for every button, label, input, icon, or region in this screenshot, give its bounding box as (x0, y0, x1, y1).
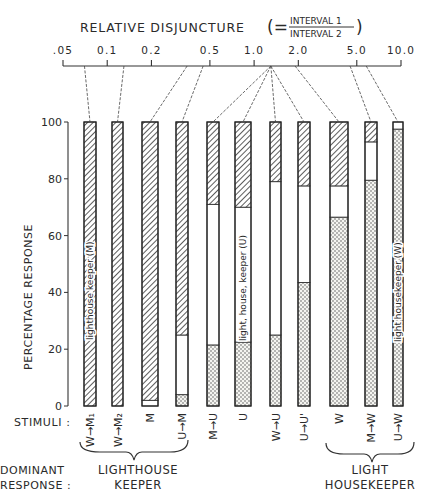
y-tick-label: 40 (48, 286, 62, 299)
segment-lighthouse-keeper (365, 122, 377, 142)
pointer-line (150, 66, 187, 122)
y-tick-label: 60 (48, 230, 62, 243)
bar-6 (270, 122, 281, 406)
dominant-label-line1: DOMINANT (0, 464, 65, 477)
pointer-line (118, 66, 124, 122)
annotation-light-house-keeper: light, house, keeper (U) (238, 235, 248, 341)
pointer-line (366, 66, 398, 122)
disjuncture-chart: RELATIVE DISJUNCTURE (= INTERVAL 1 INTER… (0, 0, 429, 500)
top-tick-label: 2.0 (288, 44, 308, 56)
bar-7 (298, 122, 310, 406)
formula-denominator: INTERVAL 2 (290, 29, 342, 39)
segment-light-house-keeper (207, 204, 219, 345)
bar-9 (365, 122, 377, 406)
pointer-line (271, 66, 304, 122)
stimulus-label: M→W (365, 413, 378, 443)
stimulus-label: U→U' (298, 413, 311, 441)
group-lighthouse-line2: KEEPER (114, 478, 161, 492)
segment-light-housekeeper (270, 335, 281, 406)
segment-lighthouse-keeper (330, 122, 348, 186)
top-tick-label: 0.5 (200, 44, 220, 56)
y-tick-label: 100 (41, 116, 62, 129)
pointer-line (213, 66, 271, 122)
bar-4 (207, 122, 219, 406)
stimuli-labels: W→M₁W→M₂MU→MM→UUW→UU→U'WM→WU→W (84, 413, 405, 447)
bar-3 (176, 122, 188, 406)
segment-light-housekeeper (298, 282, 310, 406)
segment-lighthouse-keeper (207, 122, 219, 204)
top-tick-label: 0.2 (141, 44, 161, 56)
stimulus-label: W→M₁ (84, 413, 97, 447)
segment-lighthouse-keeper (298, 122, 310, 186)
group-lighthouse-line1: LIGHTHOUSE (98, 463, 178, 477)
stimulus-label: W (333, 413, 346, 424)
segment-light-housekeeper (176, 395, 188, 406)
segment-lighthouse-keeper (112, 122, 123, 406)
segment-light-housekeeper (235, 342, 251, 406)
segment-light-house-keeper (393, 122, 403, 129)
pointer-line (84, 66, 90, 122)
stimulus-label: U→M (176, 413, 189, 440)
pointer-line (182, 66, 203, 122)
segment-light-house-keeper (142, 400, 158, 406)
stimulus-label: U (237, 413, 250, 421)
y-tick-label: 80 (48, 173, 62, 186)
y-axis: 020406080100 (41, 116, 68, 413)
segment-light-house-keeper (330, 186, 348, 217)
pointer-line (243, 66, 271, 122)
pointer-line (295, 66, 339, 122)
group-housekeeper-line2: HOUSEKEEPER (325, 478, 415, 492)
bar-1 (112, 122, 123, 406)
top-tick-label: .05 (53, 44, 73, 56)
stimulus-label: W→M₂ (112, 413, 125, 447)
annotation-lighthouse-keeper: lighthouse keeper (M) (85, 241, 95, 340)
stimulus-label: U→W (392, 413, 405, 441)
group-housekeeper-line1: LIGHT (352, 463, 389, 477)
formula-open: (= (267, 17, 288, 37)
brace-light-housekeeper (326, 442, 414, 462)
y-tick-label: 20 (48, 343, 62, 356)
stimulus-label: W→U (270, 413, 283, 441)
segment-light-house-keeper (365, 142, 377, 180)
y-axis-label: PERCENTAGE RESPONSE (22, 224, 35, 370)
segment-light-house-keeper (176, 335, 188, 395)
pointer-line (350, 66, 371, 122)
segment-lighthouse-keeper (270, 122, 281, 182)
segment-light-housekeeper (207, 345, 219, 406)
top-log-axis: .050.10.20.51.02.05.010.0 (53, 44, 415, 66)
top-tick-label: 1.0 (244, 44, 264, 56)
annotation-light-housekeeper: light housekeeper (W) (393, 242, 403, 342)
top-tick-label: 5.0 (347, 44, 367, 56)
top-tick-label: 0.1 (97, 44, 117, 56)
stimulus-label: M (144, 413, 157, 423)
dominant-label-line2: RESPONSE : (0, 479, 71, 492)
pointer-line (271, 66, 276, 122)
disjuncture-pointers (84, 66, 398, 122)
y-tick-label: 0 (55, 400, 62, 413)
segment-light-house-keeper (270, 182, 281, 335)
chart-title: RELATIVE DISJUNCTURE (80, 20, 245, 35)
segment-light-house-keeper (298, 186, 310, 283)
formula-close: ) (356, 17, 363, 37)
segment-light-housekeeper (365, 180, 377, 406)
segment-lighthouse-keeper (176, 122, 188, 335)
segment-light-housekeeper (330, 217, 348, 406)
formula-numerator: INTERVAL 1 (290, 16, 342, 26)
segment-lighthouse-keeper (235, 122, 251, 207)
bar-2 (142, 122, 158, 406)
segment-lighthouse-keeper (142, 122, 158, 400)
bar-8 (330, 122, 348, 406)
stimulus-label: M→U (207, 413, 220, 440)
stimuli-label: STIMULI : (14, 416, 70, 429)
top-tick-label: 10.0 (387, 44, 415, 56)
